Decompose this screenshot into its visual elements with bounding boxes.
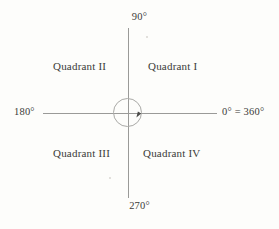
quadrants-diagram: 90° 270° 180° 0° = 360° Quadrant I Quadr… — [0, 0, 279, 229]
scan-speck — [146, 36, 148, 38]
quadrant-3-label: Quadrant III — [53, 147, 110, 159]
quadrant-1-label: Quadrant I — [148, 60, 197, 72]
quadrant-2-label: Quadrant II — [53, 60, 106, 72]
angle-label-90: 90° — [0, 11, 279, 22]
angle-label-270: 270° — [0, 200, 279, 211]
angle-label-180: 180° — [14, 106, 35, 117]
quadrant-4-label: Quadrant IV — [143, 147, 201, 159]
angle-label-0-360: 0° = 360° — [222, 106, 264, 117]
scan-speck — [109, 177, 111, 179]
